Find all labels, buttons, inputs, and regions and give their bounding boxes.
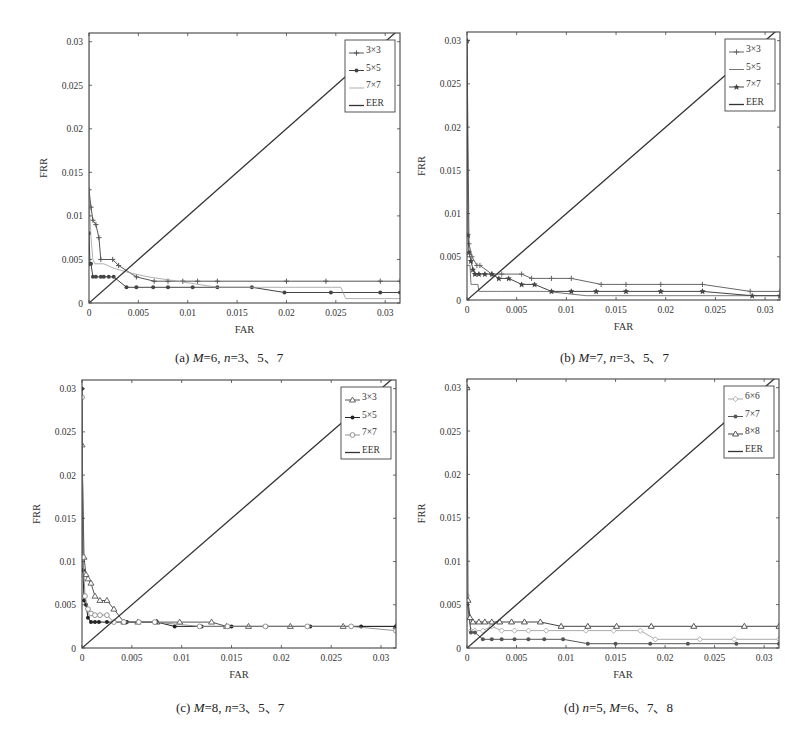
y-axis-label: FRR: [31, 504, 42, 524]
caption-a: (a) M=6, n=3、5、7: [175, 347, 283, 366]
x-tick-label: 0.02: [657, 653, 674, 663]
x-tick-label: 0.005: [506, 305, 528, 315]
x-tick-label: 0.015: [226, 308, 248, 318]
svg-text:3×3: 3×3: [366, 45, 381, 55]
chart-a-svg: 00.0050.010.0150.020.0250.0300.0050.010.…: [0, 0, 403, 372]
x-tick-label: 0: [465, 653, 470, 663]
y-tick-label: 0: [78, 299, 83, 309]
y-tick-label: 0.01: [59, 557, 76, 567]
svg-text:3×3: 3×3: [746, 44, 761, 54]
svg-text:8×8: 8×8: [745, 426, 760, 436]
svg-text:3×3: 3×3: [362, 392, 377, 402]
series-3x3: [86, 187, 402, 284]
y-tick-label: 0.01: [444, 557, 461, 567]
x-tick-label: 0.02: [273, 653, 290, 663]
legend: 3×35×57×7EER: [725, 39, 775, 111]
x-tick-label: 0.01: [179, 308, 196, 318]
x-axis-label: FAR: [229, 669, 249, 680]
svg-text:7×7: 7×7: [366, 80, 381, 90]
y-tick-label: 0.02: [444, 123, 461, 133]
x-tick-label: 0.03: [377, 308, 394, 318]
y-tick-label: 0.005: [62, 255, 84, 265]
y-tick-label: 0.02: [444, 470, 461, 480]
y-tick-label: 0.015: [440, 166, 462, 176]
y-tick-label: 0.015: [55, 514, 77, 524]
x-tick-label: 0.01: [558, 653, 575, 663]
y-tick-label: 0.03: [444, 383, 461, 393]
svg-text:5×5: 5×5: [746, 62, 761, 72]
x-tick-label: 0.025: [325, 308, 347, 318]
x-axis-label: FAR: [614, 321, 634, 332]
chart-b-svg: 00.0050.010.0150.020.0250.0300.0050.010.…: [400, 0, 806, 372]
y-axis-label: FRR: [416, 504, 427, 524]
svg-text:7×7: 7×7: [745, 409, 760, 419]
x-tick-label: 0.01: [173, 653, 190, 663]
y-tick-label: 0: [456, 644, 461, 654]
x-tick-label: 0.02: [278, 308, 295, 318]
y-tick-label: 0: [456, 296, 461, 306]
x-tick-label: 0.025: [704, 653, 726, 663]
legend: 3×35×57×7EER: [345, 40, 395, 112]
caption-b: (b) M=7, n=3、5、7: [560, 347, 669, 366]
y-axis-label: FRR: [38, 158, 49, 178]
svg-text:7×7: 7×7: [362, 427, 377, 437]
y-tick-label: 0.005: [440, 252, 462, 262]
x-tick-label: 0.015: [605, 653, 627, 663]
y-tick-label: 0.03: [66, 37, 83, 47]
x-tick-label: 0.005: [121, 653, 143, 663]
x-tick-label: 0.03: [757, 305, 774, 315]
x-axis-label: FAR: [235, 324, 255, 335]
chart-panel-b: 00.0050.010.0150.020.0250.0300.0050.010.…: [400, 0, 806, 372]
y-tick-label: 0.025: [62, 81, 84, 91]
y-tick-label: 0.02: [66, 124, 83, 134]
y-tick-label: 0.01: [444, 209, 461, 219]
svg-text:EER: EER: [746, 97, 765, 107]
caption-d: (d) n=5, M=6、7、8: [564, 697, 673, 716]
svg-text:EER: EER: [362, 445, 381, 455]
svg-text:7×7: 7×7: [746, 79, 761, 89]
y-tick-label: 0.01: [66, 211, 83, 221]
series-6x6: [464, 593, 781, 642]
x-axis-label: FAR: [613, 669, 633, 680]
y-tick-label: 0.03: [444, 36, 461, 46]
chart-panel-c: 00.0050.010.0150.020.0250.0300.0050.010.…: [0, 370, 403, 751]
y-tick-label: 0.02: [59, 471, 76, 481]
y-tick-label: 0.015: [440, 513, 462, 523]
x-tick-label: 0.005: [506, 653, 528, 663]
x-tick-label: 0.005: [128, 308, 150, 318]
svg-text:5×5: 5×5: [362, 410, 377, 420]
x-tick-label: 0.03: [756, 653, 773, 663]
x-tick-label: 0.015: [605, 305, 627, 315]
chart-d-svg: 00.0050.010.0150.020.0250.0300.0050.010.…: [400, 370, 806, 751]
y-tick-label: 0.025: [55, 427, 77, 437]
x-tick-label: 0.015: [221, 653, 243, 663]
y-tick-label: 0.015: [62, 168, 84, 178]
y-tick-label: 0.025: [440, 427, 462, 437]
x-tick-label: 0: [80, 653, 85, 663]
x-tick-label: 0: [87, 308, 92, 318]
y-tick-label: 0.005: [440, 600, 462, 610]
x-tick-label: 0.02: [657, 305, 674, 315]
svg-text:EER: EER: [366, 98, 385, 108]
y-tick-label: 0.025: [440, 79, 462, 89]
x-tick-label: 0.03: [373, 653, 390, 663]
y-tick-label: 0.03: [59, 384, 76, 394]
y-tick-label: 0.005: [55, 600, 77, 610]
y-tick-label: 0: [71, 644, 76, 654]
x-tick-label: 0.01: [558, 305, 575, 315]
series-3x3: [79, 442, 399, 629]
svg-text:5×5: 5×5: [366, 63, 381, 73]
chart-c-svg: 00.0050.010.0150.020.0250.0300.0050.010.…: [0, 370, 403, 751]
svg-text:EER: EER: [745, 444, 764, 454]
x-tick-label: 0: [465, 305, 470, 315]
x-tick-label: 0.025: [705, 305, 727, 315]
x-tick-label: 0.025: [321, 653, 343, 663]
caption-c: (c) M=8, n=3、5、7: [176, 697, 284, 716]
svg-text:6×6: 6×6: [745, 391, 760, 401]
legend: 6×67×78×8EER: [724, 386, 774, 458]
legend: 3×35×57×7EER: [341, 387, 391, 459]
y-axis-label: FRR: [416, 156, 427, 176]
chart-panel-d: 00.0050.010.0150.020.0250.0300.0050.010.…: [400, 370, 806, 751]
chart-panel-a: 00.0050.010.0150.020.0250.0300.0050.010.…: [0, 0, 403, 372]
